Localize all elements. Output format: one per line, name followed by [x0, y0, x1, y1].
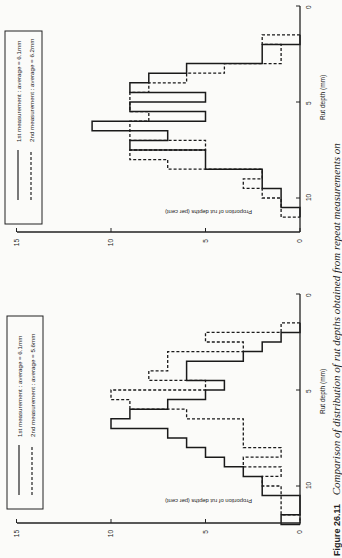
x-axis-label: Rut depth (mm): [319, 75, 327, 120]
series-1st-measurement: [92, 35, 300, 217]
figure-caption: Figure 26.11 Comparison of distribution …: [330, 143, 342, 556]
proportion-tick-label: 5: [202, 530, 209, 534]
histogram-bars: [92, 35, 300, 217]
y-axis-label: Proportion of rut depths (per cent): [165, 209, 252, 215]
axis-ticks: 0510051015: [13, 293, 313, 537]
depth-tick-label: 10: [305, 193, 312, 201]
series-2nd-measurement: [111, 323, 300, 525]
histogram-chart-bottom: 0510051015 1st measurement : average = 6…: [7, 293, 327, 537]
depth-tick-label: 5: [305, 389, 312, 393]
x-axis-label: Rut depth (mm): [319, 369, 327, 414]
figure-page: 0510051015 1st measurement : average = 6…: [0, 0, 342, 558]
figure-caption-label: Figure 26.11: [332, 504, 342, 556]
histogram-chart-top: 0510051015 1st measurement : average = 6…: [5, 5, 327, 246]
figure-caption-text: Comparison of distribution of rut depths…: [330, 143, 342, 495]
proportion-tick-label: 0: [296, 239, 303, 243]
figure-svg: 0510051015 1st measurement : average = 6…: [0, 0, 342, 558]
legend-item-1st: 1st measurement : average = 6.1mm: [16, 336, 23, 437]
depth-tick-label: 0: [305, 293, 312, 297]
legend-item-2nd: 2nd measurement : average = 5.6mm: [29, 334, 36, 437]
proportion-tick-label: 0: [296, 530, 303, 534]
legend-box: [7, 316, 43, 509]
depth-tick-label: 0: [305, 5, 312, 9]
depth-tick-label: 10: [305, 481, 312, 489]
proportion-tick-label: 5: [202, 239, 209, 243]
histogram-bars: [111, 323, 300, 525]
series-1st-measurement: [111, 323, 300, 525]
legend-item-2nd: 2nd measurement : average = 6.2mm: [28, 39, 35, 142]
proportion-tick-label: 15: [13, 239, 20, 247]
proportion-tick-label: 10: [107, 530, 114, 538]
proportion-tick-label: 10: [107, 239, 114, 247]
y-axis-label: Proportion of rut depths (per cent): [165, 498, 252, 504]
axis-ticks: 0510051015: [13, 5, 313, 246]
depth-tick-label: 5: [305, 101, 312, 105]
proportion-tick-label: 15: [13, 530, 20, 538]
legend-item-1st: 1st measurement : average = 6.1mm: [15, 41, 22, 142]
legend-box: [5, 31, 42, 224]
series-2nd-measurement: [130, 35, 300, 217]
